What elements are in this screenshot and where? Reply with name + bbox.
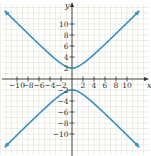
x-tick-label: −8 — [22, 81, 33, 90]
x-tick-label: −4 — [44, 81, 55, 90]
x-tick-label: 4 — [92, 81, 97, 90]
y-tick-label: −10 — [53, 130, 69, 139]
y-tick-label: 10 — [59, 20, 69, 29]
y-tick-label: 6 — [64, 42, 69, 51]
y-tick-label: 8 — [64, 31, 69, 40]
y-axis-arrow-icon — [70, 2, 74, 7]
x-tick-label: 8 — [114, 81, 119, 90]
hyperbola-chart: −10−8−6−4−2246810108642−2−4−6−8−10xy — [0, 0, 151, 156]
y-axis-label: y — [64, 1, 70, 10]
y-tick-label: 2 — [64, 64, 69, 73]
x-axis-label: x — [147, 81, 151, 90]
y-tick-label: −4 — [57, 97, 68, 106]
tick-labels: −10−8−6−4−2246810108642−2−4−6−8−10xy — [9, 1, 151, 139]
y-tick-label: −8 — [57, 119, 68, 128]
y-tick-label: −2 — [57, 86, 68, 95]
x-tick-label: 2 — [81, 81, 86, 90]
y-tick-label: 4 — [64, 53, 69, 62]
x-tick-label: −6 — [33, 81, 44, 90]
x-tick-label: 10 — [122, 81, 132, 90]
x-tick-label: 6 — [103, 81, 108, 90]
y-tick-label: −6 — [57, 108, 68, 117]
